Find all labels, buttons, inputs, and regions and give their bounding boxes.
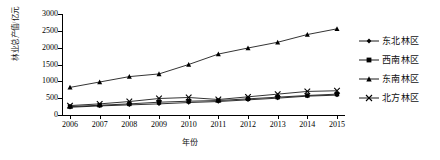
y-tick-label: 1500 [42, 61, 58, 69]
x-tick-label: 2015 [329, 121, 345, 129]
legend-item-triangle[interactable]: 东南林区 [358, 69, 440, 88]
x-tick-label: 2011 [210, 121, 226, 129]
x-tick-label: 2008 [121, 121, 137, 129]
legend-label: 北方林区 [380, 91, 419, 104]
legend-label: 东北林区 [380, 34, 419, 47]
line-chart: 林业总产值/亿元 050010001500200025003000 200620… [0, 0, 440, 160]
series-square [68, 92, 339, 109]
legend-marker-cross-icon [358, 92, 380, 104]
data-point-diamond [367, 38, 372, 43]
x-tick-label: 2006 [62, 121, 78, 129]
legend-marker-triangle-icon [358, 73, 380, 85]
legend-marker-square-icon [358, 54, 380, 66]
y-tick-label: 2000 [42, 44, 58, 52]
series-line [70, 29, 337, 88]
data-point-square [305, 93, 309, 97]
x-axis-title: 年份 [150, 136, 230, 147]
x-tick-label: 2014 [299, 121, 315, 129]
x-tick-label: 2009 [151, 121, 167, 129]
data-point-square [367, 57, 372, 62]
y-tick-label: 500 [46, 94, 58, 102]
x-tick-label: 2012 [240, 121, 256, 129]
legend-item-cross[interactable]: 北方林区 [358, 88, 440, 107]
x-tick-label: 2007 [92, 121, 108, 129]
legend-item-diamond[interactable]: 东北林区 [358, 31, 440, 50]
data-point-triangle [335, 26, 340, 31]
legend-marker-diamond-icon [358, 35, 380, 47]
y-tick-label: 0 [54, 111, 58, 119]
series-line [70, 94, 337, 106]
series-layer [62, 14, 345, 116]
y-tick-label: 1000 [42, 77, 58, 85]
y-tick-label: 3000 [42, 10, 58, 18]
series-triangle [68, 26, 340, 89]
y-axis-title: 林业总产值/亿元 [9, 0, 20, 79]
series-line [70, 91, 337, 106]
legend: 东北林区西南林区东南林区北方林区 [358, 31, 440, 107]
legend-label: 东南林区 [380, 72, 419, 85]
legend-label: 西南林区 [380, 53, 419, 66]
y-tick-label: 2500 [42, 27, 58, 35]
x-tick-label: 2010 [181, 121, 197, 129]
x-tick-label: 2013 [270, 121, 286, 129]
plot-area: 050010001500200025003000 200620072008200… [62, 14, 345, 116]
legend-item-square[interactable]: 西南林区 [358, 50, 440, 69]
